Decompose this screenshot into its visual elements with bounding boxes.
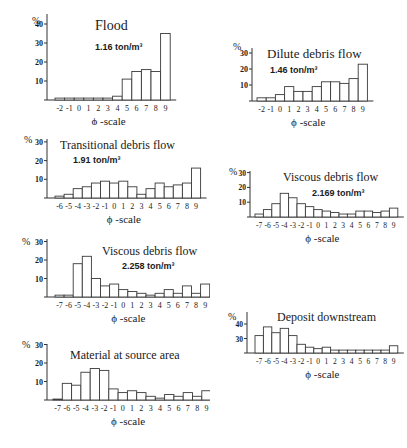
x-tick-label: -1 <box>102 202 109 211</box>
x-tick-label: 8 <box>194 301 198 310</box>
x-tick-label: 6 <box>177 404 181 413</box>
x-axis-label: ϕ -scale <box>107 213 141 225</box>
x-axis-label: ϕ -scale <box>305 232 339 244</box>
histogram-bar <box>297 344 305 353</box>
x-tick-label: 8 <box>185 202 189 211</box>
x-axis-label: ϕ -scale <box>92 115 126 125</box>
density-label: 2.169 ton/m³ <box>312 188 365 198</box>
x-tick-label: 8 <box>383 221 387 230</box>
y-tick-label: 30 <box>35 39 43 48</box>
histogram-bar <box>113 96 123 100</box>
y-tick-label: 30 <box>35 138 43 147</box>
y-unit-label: % <box>24 134 32 145</box>
chart-title: Viscous debris flow <box>283 170 379 184</box>
x-tick-label: 8 <box>383 357 387 366</box>
chart-flood: 10203040%-2-10123456789ϕ -scaleFlood1.16… <box>0 0 210 125</box>
x-tick-label: -3 <box>290 357 296 366</box>
y-unit-label: % <box>233 41 241 52</box>
x-tick-label: -1 <box>110 404 117 413</box>
histogram-bar <box>373 350 381 353</box>
histogram-bar <box>146 396 155 400</box>
chart-viscous-debris-flow-2258: 102030%-7-6-5-4-3-2-10123456789ϕ -scaleV… <box>0 225 210 330</box>
histogram-bar <box>174 396 183 400</box>
histogram-bar <box>192 168 201 198</box>
chart-title: Dilute debris flow <box>267 46 362 61</box>
x-tick-label: 4 <box>149 202 153 211</box>
histogram-bar <box>275 95 284 101</box>
x-tick-label: 3 <box>149 301 153 310</box>
chart-title: Deposit downstream <box>277 310 377 324</box>
x-tick-label: 2 <box>333 357 337 366</box>
histogram-bar <box>128 187 137 198</box>
histogram-bar <box>255 336 263 353</box>
histogram-bar <box>110 183 119 198</box>
x-tick-label: 9 <box>203 301 207 310</box>
y-tick-label: 10 <box>35 175 43 184</box>
histogram-bar <box>73 264 82 297</box>
x-tick-label: -2 <box>258 105 265 114</box>
x-tick-label: 5 <box>358 221 362 230</box>
x-tick-label: 6 <box>135 104 139 113</box>
y-tick-label: 20 <box>240 65 248 74</box>
histogram-bar <box>347 350 355 353</box>
x-tick-label: -6 <box>65 301 72 310</box>
histogram-bar <box>257 98 266 101</box>
x-tick-label: -2 <box>102 301 109 310</box>
histogram-bar <box>137 393 146 400</box>
histogram-bar <box>53 399 62 400</box>
histogram-bar <box>119 290 128 297</box>
x-tick-label: 0 <box>112 202 116 211</box>
histogram-bar <box>82 187 91 198</box>
histogram-bar <box>165 394 174 400</box>
x-tick-label: -3 <box>92 404 99 413</box>
x-tick-label: -1 <box>66 104 73 113</box>
x-tick-label: 5 <box>324 105 328 114</box>
histogram-bar <box>280 328 288 353</box>
histogram-bar <box>55 196 64 198</box>
x-tick-label: -1 <box>111 301 118 310</box>
histogram-bar <box>356 350 364 353</box>
histogram-bar <box>331 213 339 217</box>
histogram-bar <box>91 279 100 298</box>
histogram-bar <box>347 214 355 217</box>
x-axis-label: ϕ -scale <box>291 116 325 128</box>
histogram-bar <box>294 91 303 101</box>
histogram-svg: 102030%-7-6-5-4-3-2-10123456789ϕ -scaleV… <box>0 225 210 330</box>
histogram-bar <box>389 346 397 353</box>
x-tick-label: -4 <box>281 357 287 366</box>
x-tick-label: 9 <box>204 404 208 413</box>
x-tick-label: 3 <box>139 202 143 211</box>
histogram-bar <box>373 213 381 217</box>
x-tick-label: 2 <box>333 221 337 230</box>
y-unit-label: % <box>229 166 237 177</box>
x-tick-label: -5 <box>65 202 72 211</box>
histogram-bar <box>201 284 210 297</box>
y-tick-label: 10 <box>240 81 248 90</box>
histogram-bar <box>72 385 81 400</box>
x-tick-label: 8 <box>352 105 356 114</box>
y-tick-label: 10 <box>239 198 247 207</box>
y-tick-label: 30 <box>35 238 43 247</box>
histogram-bar <box>122 79 132 100</box>
histogram-bar <box>322 347 330 353</box>
x-tick-label: 1 <box>287 105 291 114</box>
x-tick-label: 7 <box>375 357 379 366</box>
x-tick-label: -4 <box>74 202 81 211</box>
histogram-bar <box>312 87 321 101</box>
histogram-bar <box>305 347 313 353</box>
x-tick-label: 6 <box>367 221 371 230</box>
histogram-bar <box>161 34 171 101</box>
x-tick-label: -5 <box>74 301 81 310</box>
chart-material-at-source-area: 102030%-7-6-5-4-3-2-10123456789ϕ -scaleM… <box>0 330 210 448</box>
histogram-bar <box>358 64 367 101</box>
chart-transitional-debris-flow: 102030%-6-5-4-3-2-10123456789ϕ -scaleTra… <box>0 125 210 230</box>
x-tick-label: -6 <box>264 357 270 366</box>
histogram-bar <box>303 91 312 101</box>
y-tick-label: 10 <box>35 275 43 284</box>
histogram-bar <box>118 393 127 400</box>
x-tick-label: 4 <box>158 301 162 310</box>
histogram-bar <box>65 98 75 100</box>
x-tick-label: -7 <box>54 404 61 413</box>
histogram-bar <box>193 396 202 400</box>
x-tick-label: -5 <box>273 221 279 230</box>
